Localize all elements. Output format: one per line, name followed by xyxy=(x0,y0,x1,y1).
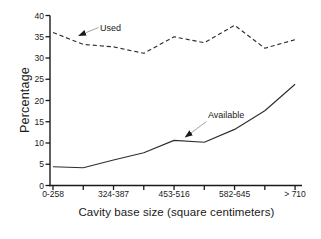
x-tick-label: 582-645 xyxy=(219,189,250,199)
y-tick-label: 5 xyxy=(39,159,44,169)
x-tick-label: 453-516 xyxy=(158,189,189,199)
available-annotation-arrow xyxy=(186,122,207,138)
y-tick-label: 40 xyxy=(35,11,45,21)
x-tick-label: > 710 xyxy=(284,189,306,199)
plot-area: 05101520253035400-258324-387453-516582-6… xyxy=(0,0,321,239)
y-tick-label: 20 xyxy=(35,96,45,106)
y-tick-label: 35 xyxy=(35,32,45,42)
x-axis-title: Cavity base size (square centimeters) xyxy=(50,206,303,218)
cavity-size-line-chart-figure: 05101520253035400-258324-387453-516582-6… xyxy=(0,0,321,239)
y-axis-title: Percentage xyxy=(18,67,32,133)
used-series-line xyxy=(53,25,295,53)
y-tick-label: 25 xyxy=(35,74,45,84)
y-tick-label: 15 xyxy=(35,117,45,127)
used-annotation-arrow xyxy=(79,28,99,36)
used-series-label: Used xyxy=(100,23,121,33)
available-series-line xyxy=(53,84,295,167)
y-tick-label: 30 xyxy=(35,53,45,63)
x-tick-label: 0-258 xyxy=(42,189,64,199)
x-tick-label: 324-387 xyxy=(98,189,129,199)
y-tick-label: 10 xyxy=(35,138,45,148)
available-series-label: Available xyxy=(208,110,244,120)
